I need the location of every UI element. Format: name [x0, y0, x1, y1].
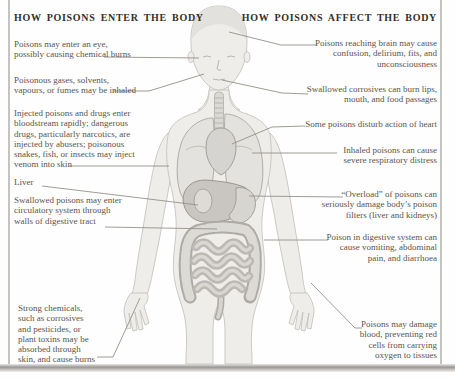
- right-ear: [244, 52, 250, 63]
- left-panel-heading: HOW POISONS ENTER THE BODY: [14, 12, 204, 23]
- label-liver: Liver: [14, 177, 34, 187]
- label-brain-effect: Poisons reaching brain may cause confusi…: [315, 38, 437, 69]
- label-overload-effect: “Overload” of poisons can seriously dama…: [322, 189, 437, 220]
- left-ear: [188, 52, 194, 63]
- right-arm: [266, 133, 306, 298]
- label-respiratory-effect: Inhaled poisons can cause severe respira…: [343, 145, 437, 166]
- leader-blood: [311, 283, 362, 328]
- label-heart-effect: Some poisons disturb action of heart: [305, 119, 437, 129]
- label-inhalation-entry: Poisonous gases, solvents, vapours, or f…: [14, 75, 136, 96]
- label-injection-entry: Injected poisons and drugs enter bloodst…: [14, 108, 135, 170]
- label-swallowed-entry: Swallowed poisons may enter circulatory …: [14, 195, 122, 226]
- right-hand: [289, 293, 314, 331]
- left-arm: [132, 133, 172, 298]
- label-corrosives-effect: Swallowed corrosives can burn lips, mout…: [307, 84, 437, 105]
- label-blood-effect: Poisons may damage blood, preventing red…: [360, 319, 437, 360]
- gallbladder: [194, 189, 212, 213]
- leader-mouth: [222, 80, 308, 94]
- diagram-page: HOW POISONS ENTER THE BODY HOW POISONS A…: [0, 0, 455, 378]
- label-digestive-effect: Poison in digestive system can cause vom…: [327, 232, 438, 263]
- label-skin-absorption: Strong chemicals, such as corrosives and…: [18, 303, 95, 365]
- right-panel-heading: HOW POISONS AFFECT THE BODY: [242, 12, 437, 23]
- label-eye-entry: Poisons may enter an eye, possibly causi…: [14, 39, 131, 60]
